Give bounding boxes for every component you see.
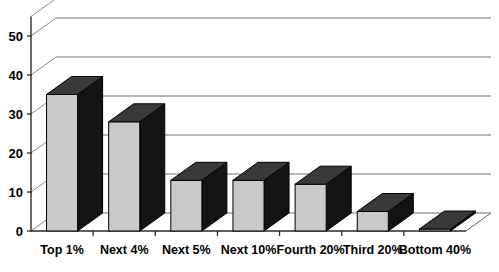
y-axis-tick-label: 0 [16, 224, 23, 239]
gridline-depth-connector [31, 0, 56, 17]
x-axis-category-label: Top 1% [40, 243, 84, 257]
x-axis-category-label: Next 5% [162, 243, 211, 257]
bar-side-face [140, 104, 165, 231]
bars-group [47, 77, 476, 232]
gridline-depth-connector [31, 57, 56, 75]
gridline-depth-connector [31, 18, 56, 36]
y-axis-tick-label: 30 [9, 107, 23, 122]
bar-4 [233, 162, 289, 231]
bar-top-face [419, 211, 475, 229]
bar-front-face [171, 180, 202, 231]
y-axis-tick-label: 10 [9, 185, 23, 200]
x-axis-category-label: Next 4% [100, 243, 149, 257]
bar-chart-figure: 01020304050Top 1%Next 4%Next 5%Next 10%F… [0, 0, 499, 272]
x-axis-category-label: Bottom 40% [399, 243, 471, 257]
x-axis-category-label: Next 10% [221, 243, 277, 257]
bar-front-face [295, 184, 326, 231]
bar-3 [171, 162, 227, 231]
bar-front-face [47, 95, 78, 232]
bar-front-face [233, 180, 264, 231]
chart-canvas: 01020304050Top 1%Next 4%Next 5%Next 10%F… [0, 0, 499, 272]
bar-5 [295, 166, 351, 231]
x-axis-category-label: Fourth 20% [277, 243, 345, 257]
bar-2 [109, 104, 165, 231]
bar-1 [47, 77, 103, 232]
y-axis-tick-label: 20 [9, 146, 23, 161]
x-axis-category-label: Third 20% [343, 243, 403, 257]
y-axis-tick-label: 50 [9, 29, 23, 44]
y-axis-tick-label: 40 [9, 68, 23, 83]
bar-6 [357, 194, 413, 232]
bar-side-face [78, 77, 103, 232]
bar-front-face [357, 212, 388, 232]
bar-front-face [109, 122, 140, 231]
bar-7 [419, 211, 475, 231]
